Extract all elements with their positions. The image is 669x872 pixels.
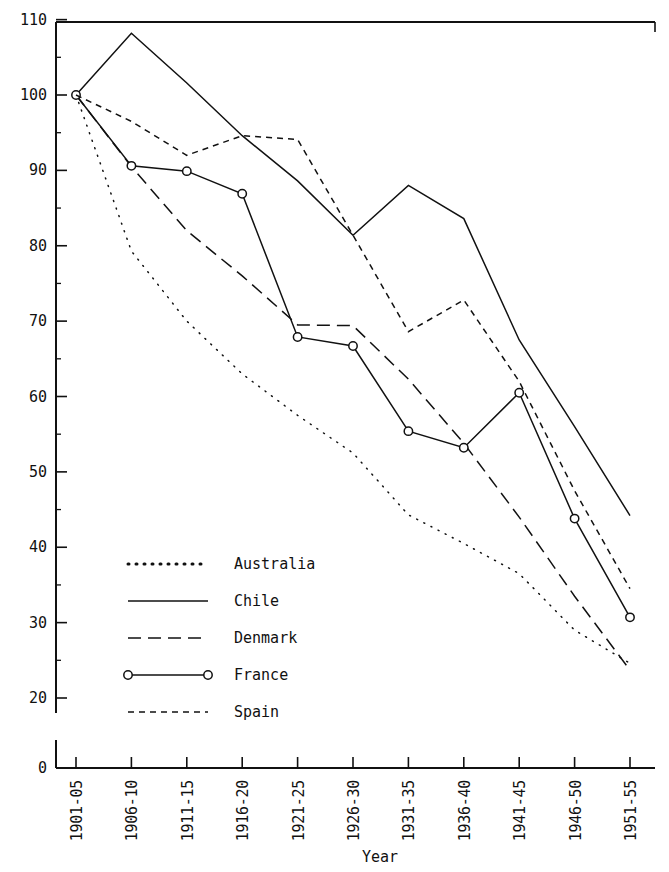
data-point-marker [404, 427, 412, 435]
x-tick-label: 1911-15 [179, 780, 197, 841]
x-tick-label: 1901-05 [68, 780, 86, 841]
legend-label-france: France [234, 666, 288, 684]
legend-marker [204, 671, 212, 679]
y-tick-label: 40 [29, 538, 47, 556]
x-tick-label: 1951-55 [622, 780, 640, 841]
y-tick-label: 100 [20, 86, 47, 104]
legend-label-denmark: Denmark [234, 629, 297, 647]
x-tick-label: 1931-35 [400, 780, 418, 841]
line-chart: 02030405060708090100110 1901-051906-1019… [0, 0, 669, 872]
x-tick-label: 1946-50 [567, 780, 585, 841]
y-tick-label: 20 [29, 689, 47, 707]
y-tick-label: 110 [20, 11, 47, 29]
data-point-marker [127, 162, 135, 170]
chart-canvas: 02030405060708090100110 1901-051906-1019… [0, 0, 669, 872]
data-point-marker [460, 444, 468, 452]
x-tick-label: 1921-25 [290, 780, 308, 841]
legend-marker [124, 671, 132, 679]
x-tick-label: 1941-45 [511, 780, 529, 841]
axis-titles: Year [362, 848, 398, 866]
legend-label-australia: Australia [234, 555, 315, 573]
chart-background [0, 0, 669, 872]
data-point-marker [349, 342, 357, 350]
data-point-marker [293, 333, 301, 341]
data-point-marker [515, 389, 523, 397]
data-point-marker [570, 514, 578, 522]
legend-label-spain: Spain [234, 703, 279, 721]
x-tick-label: 1916-20 [234, 780, 252, 841]
y-tick-label: 80 [29, 237, 47, 255]
y-tick-label: 0 [38, 759, 47, 777]
x-tick-label: 1936-40 [456, 780, 474, 841]
x-tick-label: 1926-30 [345, 780, 363, 841]
x-tick-label: 1906-10 [123, 780, 141, 841]
y-tick-label: 30 [29, 614, 47, 632]
y-tick-label: 70 [29, 312, 47, 330]
legend-label-chile: Chile [234, 592, 279, 610]
y-tick-label: 60 [29, 388, 47, 406]
y-tick-label: 50 [29, 463, 47, 481]
data-point-marker [626, 613, 634, 621]
data-point-marker [183, 167, 191, 175]
x-axis-title: Year [362, 848, 398, 866]
data-point-marker [238, 190, 246, 198]
y-tick-label: 90 [29, 161, 47, 179]
